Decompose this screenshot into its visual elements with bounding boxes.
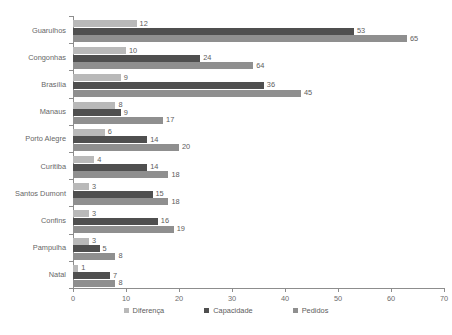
x-axis-tick [126,288,127,292]
category-label: Pampulha [33,243,66,252]
category-label: Natal [49,270,66,279]
legend-item[interactable]: Diferença [124,306,165,315]
bar-capacidade [73,109,121,116]
bar-row: 8 [73,102,444,109]
bar-pedidos [73,198,168,205]
bar-diferena [73,47,126,54]
bar-row: 15 [73,191,444,198]
legend-item[interactable]: Pedidos [293,306,329,315]
bars-wrapper: 31518 [73,183,444,206]
bar-value-label: 1 [78,264,85,273]
x-axis-tick [285,288,286,292]
bar-row: 8 [73,253,444,260]
bar-row: 14 [73,136,444,143]
bar-row: 19 [73,226,444,233]
x-axis-tick [179,288,180,292]
bar-capacidade [73,82,264,89]
bar-value-label: 17 [163,116,174,125]
x-axis-tick-label: 50 [334,294,342,303]
bar-row: 17 [73,117,444,124]
legend-label: Capacidade [213,306,252,315]
bar-pedidos [73,62,253,69]
x-axis-line [73,288,444,289]
bar-value-label: 36 [264,81,275,90]
x-axis-tick-label: 0 [71,294,75,303]
bar-chart: Guarulhos125365Congonhas102464Brasília93… [0,0,452,335]
category-label: Confins [41,215,66,224]
x-axis-tick [444,288,445,292]
bar-row: 3 [73,210,444,217]
bar-value-label: 3 [89,236,96,245]
bar-capacidade [73,164,147,171]
bar-value-label: 5 [100,244,107,253]
bar-value-label: 4 [94,155,101,164]
bar-group: Santos Dumont31518 [73,179,444,206]
legend-swatch-icon [293,308,298,313]
bar-value-label: 8 [115,252,122,261]
bar-row: 6 [73,129,444,136]
bar-value-label: 53 [354,26,365,35]
plot-area: Guarulhos125365Congonhas102464Brasília93… [73,16,444,288]
bar-value-label: 8 [115,279,122,288]
bar-row: 16 [73,218,444,225]
bar-group: Curitiba41418 [73,152,444,179]
bar-diferena [73,20,137,27]
bars-wrapper: 102464 [73,47,444,70]
bar-group: Pampulha358 [73,234,444,261]
bar-value-label: 65 [407,34,418,43]
bar-group: Natal178 [73,261,444,288]
bars-wrapper: 93645 [73,74,444,97]
bar-value-label: 3 [89,209,96,218]
legend-swatch-icon [204,308,209,313]
x-axis-tick-label: 30 [228,294,236,303]
bar-diferena [73,129,105,136]
bar-value-label: 19 [174,224,185,233]
bar-capacidade [73,272,110,279]
bar-diferena [73,210,89,217]
x-axis-tick [73,288,74,292]
bar-pedidos [73,144,179,151]
bar-group: Confins31619 [73,206,444,233]
bar-value-label: 9 [121,73,128,82]
bar-value-label: 18 [168,170,179,179]
bar-row: 5 [73,245,444,252]
x-axis-tick-label: 40 [281,294,289,303]
bar-row: 45 [73,90,444,97]
bar-value-label: 20 [179,143,190,152]
bar-diferena [73,183,89,190]
bar-value-label: 16 [158,217,169,226]
bar-value-label: 10 [126,46,137,55]
x-axis-tick [232,288,233,292]
bar-diferena [73,238,89,245]
bar-row: 9 [73,74,444,81]
bar-pedidos [73,90,301,97]
bar-row: 18 [73,171,444,178]
x-axis-tick-label: 10 [122,294,130,303]
bar-value-label: 14 [147,135,158,144]
legend-item[interactable]: Capacidade [204,306,252,315]
bar-row: 20 [73,144,444,151]
bar-row: 3 [73,183,444,190]
bar-group: Porto Alegre61420 [73,125,444,152]
bar-capacidade [73,136,147,143]
category-label: Santos Dumont [15,188,66,197]
bars-wrapper: 61420 [73,129,444,152]
category-label: Guarulhos [32,25,66,34]
legend-swatch-icon [124,308,129,313]
category-label: Porto Alegre [25,134,66,143]
bar-pedidos [73,253,115,260]
x-axis-tick-label: 70 [440,294,448,303]
x-axis-tick-label: 60 [387,294,395,303]
bar-pedidos [73,226,174,233]
bar-value-label: 24 [200,54,211,63]
bars-wrapper: 178 [73,265,444,288]
bars-wrapper: 125365 [73,20,444,43]
legend-label: Pedidos [302,306,329,315]
bar-value-label: 64 [253,61,264,70]
bar-row: 4 [73,156,444,163]
bars-wrapper: 358 [73,238,444,261]
x-axis-tick-label: 20 [175,294,183,303]
bar-value-label: 14 [147,162,158,171]
bar-row: 8 [73,280,444,287]
bars-wrapper: 8917 [73,102,444,125]
